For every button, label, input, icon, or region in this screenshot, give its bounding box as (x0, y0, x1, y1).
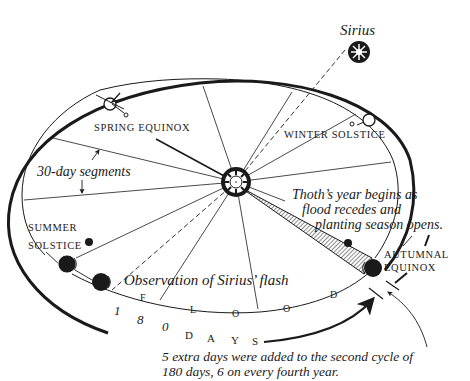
svg-text:Thoth’s year begins as: Thoth’s year begins as (292, 187, 418, 202)
svg-text:F: F (140, 292, 146, 303)
days-arrow (264, 300, 372, 342)
sirius-label: Sirius (340, 22, 375, 38)
svg-text:8: 8 (137, 312, 144, 327)
orbit-break-ticks (369, 273, 407, 299)
summer-solstice-label-2: SOLSTICE (28, 240, 82, 251)
orbit-connector (75, 270, 92, 280)
svg-text:A: A (207, 332, 215, 344)
svg-text:planting season opens.: planting season opens. (314, 217, 443, 232)
svg-text:D: D (330, 289, 337, 300)
summer-moon-dot-icon (85, 238, 93, 246)
svg-text:1: 1 (114, 303, 121, 318)
winter-solstice-earth-icon (350, 114, 375, 126)
thoth-pointer-thick (425, 235, 429, 246)
autumnal-equinox-label-1: AUTUMNAL (384, 249, 449, 260)
svg-text:flood recedes and: flood recedes and (302, 202, 402, 217)
svg-text:5 extra days were added to the: 5 extra days were added to the second cy… (162, 349, 415, 364)
segments-arrow-up (92, 150, 99, 160)
sun-center-icon (221, 167, 251, 197)
thoth-note: Thoth’s year begins as flood recedes and… (292, 187, 443, 232)
summer-solstice-earth-icon (58, 255, 76, 273)
spring-equinox-label: SPRING EQUINOX (94, 122, 190, 133)
summer-solstice-label-1: SUMMER (28, 222, 77, 233)
sirius-observation-earth-icon (92, 273, 110, 291)
autumnal-equinox-label-2: EQUINOX (384, 262, 436, 273)
spring-equinox-earth-icon (96, 93, 128, 117)
footnote-arrow (388, 292, 427, 347)
footnote: 5 extra days were added to the second cy… (162, 349, 415, 379)
svg-text:O: O (283, 303, 290, 314)
observation-label: Observation of Sirius’ flash (124, 272, 289, 288)
sothic-calendar-diagram: Sirius SPRING EQUINOX WINTER SOLSTICE 30… (0, 0, 470, 381)
svg-text:Y: Y (231, 334, 239, 346)
svg-text:180 days, 6 on every fourth ye: 180 days, 6 on every fourth year. (162, 364, 339, 379)
svg-text:O: O (232, 308, 239, 319)
sirius-star-icon (348, 41, 370, 63)
svg-text:S: S (252, 335, 258, 347)
autumn-moon-dot-icon (344, 239, 352, 247)
segments-label: 30-day segments (36, 164, 131, 179)
svg-text:L: L (190, 304, 196, 315)
svg-text:D: D (185, 329, 193, 341)
svg-text:0: 0 (162, 319, 169, 334)
winter-solstice-label: WINTER SOLSTICE (284, 129, 385, 140)
